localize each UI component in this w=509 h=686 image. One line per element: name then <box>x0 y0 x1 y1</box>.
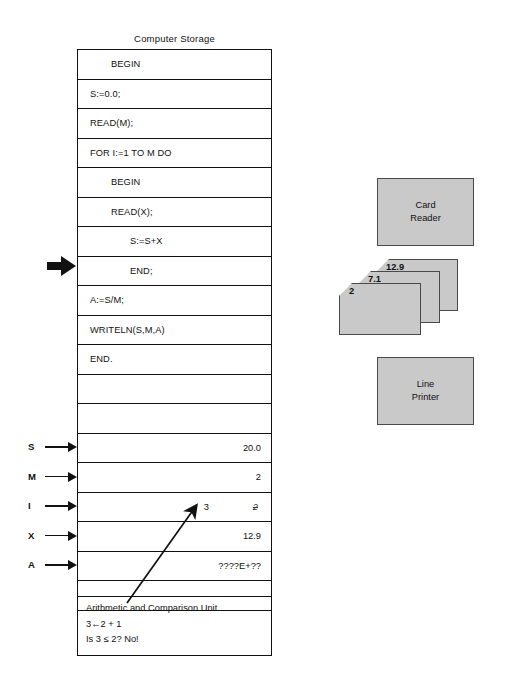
storage-row: 20.0 <box>78 434 271 464</box>
storage-row-code: BEGIN <box>111 177 140 187</box>
variable-label-a: A <box>28 559 35 570</box>
storage-row: BEGIN <box>78 50 271 80</box>
arrow-shaft <box>45 446 70 448</box>
storage-row-code: BEGIN <box>111 59 140 69</box>
variable-label-i: I <box>28 500 31 511</box>
storage-row: BEGIN <box>78 168 271 198</box>
execution-pointer-arrow-icon <box>47 256 77 276</box>
storage-row-code: A:=S/M; <box>90 295 124 305</box>
storage-row: WRITELN(S,M,A) <box>78 316 271 346</box>
variable-label-s: S <box>28 441 34 452</box>
arrow-shaft <box>45 505 70 507</box>
storage-title: Computer Storage <box>77 33 272 44</box>
arrow-head <box>68 442 77 452</box>
storage-row: A:=S/M; <box>78 286 271 316</box>
storage-row-value: 2 <box>256 472 261 482</box>
storage-row-value: ????E+?? <box>218 561 261 571</box>
arrow-shaft <box>45 476 70 478</box>
line-printer-line1: Line <box>417 379 435 389</box>
storage-row-code: END. <box>90 354 113 364</box>
storage-row-code: S:=S+X <box>130 236 163 246</box>
storage-row: 2 <box>78 463 271 493</box>
storage-row: FOR I:=1 TO M DO <box>78 139 271 169</box>
update-trace-arrow-icon <box>118 495 208 610</box>
line-printer-line2: Printer <box>412 392 439 402</box>
loop-counter-old-value: 2 <box>253 502 258 512</box>
variable-label-m: M <box>28 471 36 482</box>
storage-row: READ(X); <box>78 198 271 228</box>
punch-card: 2 <box>339 283 421 335</box>
punch-card-value: 7.1 <box>368 274 381 284</box>
punch-card-value: 2 <box>349 286 354 296</box>
storage-row: END. <box>78 345 271 375</box>
storage-row: S:=S+X <box>78 227 271 257</box>
storage-row-code: READ(M); <box>90 118 133 128</box>
storage-row-value: 20.0 <box>243 443 261 453</box>
arrow-head <box>68 472 77 482</box>
storage-row: END; <box>78 257 271 287</box>
arrow-shaft <box>45 564 70 566</box>
storage-row-code: READ(X); <box>111 207 153 217</box>
storage-row-code: WRITELN(S,M,A) <box>90 325 165 335</box>
arrow-head <box>68 501 77 511</box>
variable-pointer-arrow-icon <box>45 501 77 511</box>
storage-row-code: S:=0.0; <box>90 89 120 99</box>
punch-card-value: 12.9 <box>386 262 404 272</box>
storage-row: S:=0.0; <box>78 80 271 110</box>
line-printer-device: Line Printer <box>377 357 474 425</box>
variable-pointer-arrow-icon <box>45 472 77 482</box>
variable-pointer-arrow-icon <box>45 531 77 541</box>
arrow-head <box>68 531 77 541</box>
storage-row <box>78 404 271 434</box>
storage-row: READ(M); <box>78 109 271 139</box>
arrow-head <box>68 560 77 570</box>
variable-label-x: X <box>28 530 34 541</box>
card-reader-label: Card Reader <box>410 199 441 226</box>
storage-row-value: 12.9 <box>243 531 261 541</box>
line-printer-label: Line Printer <box>412 378 439 405</box>
card-reader-line2: Reader <box>410 213 441 223</box>
storage-row-code: END; <box>130 266 153 276</box>
acu-comparison: Is 3 ≤ 2? No! <box>86 632 271 648</box>
card-reader-device: Card Reader <box>377 178 474 246</box>
acu-assignment: 3←2 + 1 <box>86 617 271 633</box>
storage-row-code: FOR I:=1 TO M DO <box>90 148 172 158</box>
arrow-shaft <box>45 535 70 537</box>
storage-row <box>78 375 271 405</box>
variable-pointer-arrow-icon <box>45 560 77 570</box>
variable-pointer-arrow-icon <box>45 442 77 452</box>
card-reader-line1: Card <box>415 200 435 210</box>
pointer-head <box>61 256 76 276</box>
